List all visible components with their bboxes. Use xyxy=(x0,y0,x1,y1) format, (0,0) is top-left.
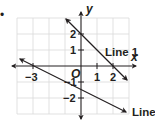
x-tick-label: 2 xyxy=(110,71,116,83)
y-tick-label: −2 xyxy=(63,92,76,104)
line-1-label: Line 1 xyxy=(105,46,139,58)
x-tick-label: −3 xyxy=(25,71,38,83)
x-tick-label: 1 xyxy=(94,71,100,83)
y-tick-label: −1 xyxy=(64,76,77,88)
y-tick-label: 2 xyxy=(70,28,76,40)
y-tick-label: 1 xyxy=(70,44,76,56)
line-2-label: Line xyxy=(132,106,155,118)
bullet-mark: • xyxy=(0,8,4,22)
coordinate-graph: • y x O −3 1 2 2 1 −1 −2 xyxy=(0,0,155,121)
y-axis-label: y xyxy=(85,2,94,16)
